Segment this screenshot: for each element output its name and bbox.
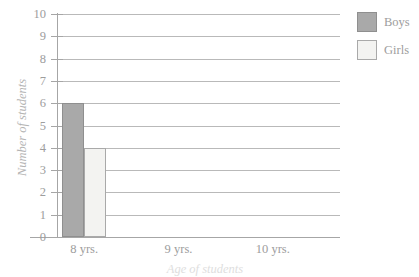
legend-label-boys: Boys [384, 15, 410, 30]
y-axis-tick-label-wrap: 1 [20, 209, 46, 221]
bar-boys-8yrs [62, 103, 84, 237]
legend-item-girls: Girls [357, 39, 410, 61]
y-axis-tick-label-wrap: 0 [20, 231, 46, 243]
legend-label-girls: Girls [384, 43, 409, 58]
y-axis-tick [51, 237, 63, 238]
girls-swatch-icon [357, 40, 377, 60]
y-axis-tick-label-wrap: 9 [20, 30, 46, 42]
y-axis-tick-label: 1 [24, 209, 46, 221]
legend-item-boys: Boys [357, 11, 410, 33]
bars-layer [57, 14, 340, 237]
x-axis-tick-label: 8 yrs. [44, 242, 124, 256]
y-axis-tick-label: 9 [24, 30, 46, 42]
y-axis-tick-label-wrap: 10 [20, 8, 46, 20]
boys-swatch-icon [357, 12, 377, 32]
bar-girls-8yrs [84, 148, 106, 237]
y-axis-tick-label: 10 [24, 8, 46, 20]
y-axis-title: Number of students [15, 58, 30, 198]
x-axis-tick-label: 9 yrs. [139, 242, 219, 256]
x-axis-tick-label: 10 yrs. [233, 242, 313, 256]
legend: Boys Girls [357, 11, 410, 67]
y-axis-tick-label: 0 [24, 231, 46, 243]
x-axis-line [30, 237, 340, 238]
bar-chart: 012345678910 8 yrs.9 yrs.10 yrs. Number … [0, 0, 419, 277]
x-axis-title: Age of students [120, 262, 290, 277]
